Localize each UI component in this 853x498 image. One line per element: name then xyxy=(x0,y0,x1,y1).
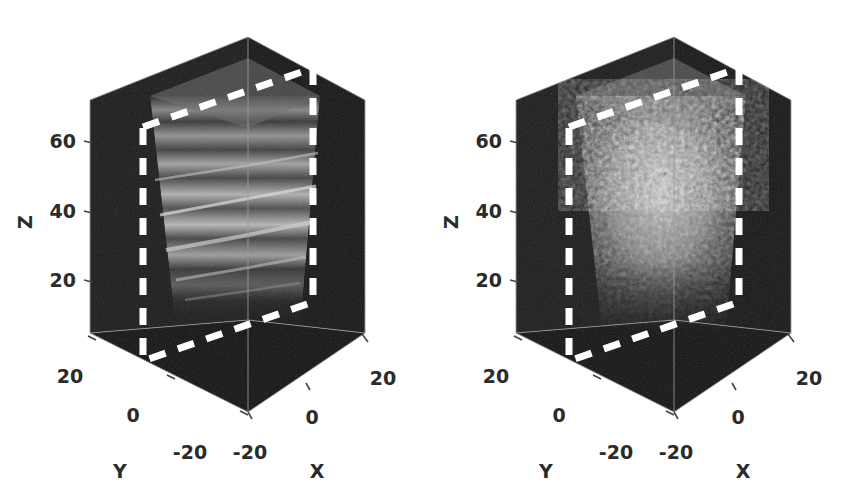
y-ticklabel-m20: -20 xyxy=(173,441,207,463)
x-tick-0 xyxy=(732,383,736,390)
y-tick-20 xyxy=(88,336,96,340)
x-tick-m20 xyxy=(248,412,252,419)
z-ticklabel-20: 20 xyxy=(476,269,502,291)
y-tick-0 xyxy=(593,375,601,379)
panel-left: 60 40 20 Z 20 0 -20 Y -20 0 xyxy=(0,0,427,498)
volume-speckle-right xyxy=(506,30,806,420)
x-ticklabel-0: 0 xyxy=(731,406,744,428)
x-ticklabel-m20: -20 xyxy=(659,441,693,463)
z-ticklabel-20: 20 xyxy=(50,269,76,291)
axis-label-y: Y xyxy=(112,460,127,482)
y-ticklabel-0: 0 xyxy=(126,404,139,426)
x-tick-m20 xyxy=(674,412,678,419)
y-ticklabel-20: 20 xyxy=(483,365,509,387)
z-ticklabel-40: 40 xyxy=(476,200,502,222)
axis-z-right: 60 40 20 Z xyxy=(440,130,518,291)
y-tick-20 xyxy=(514,336,522,340)
y-ticklabel-m20: -20 xyxy=(599,441,633,463)
axis-label-z: Z xyxy=(14,215,36,229)
axis-label-y: Y xyxy=(538,460,553,482)
panel-right: 60 40 20 Z 20 0 -20 Y -20 0 20 xyxy=(426,0,853,498)
y-ticklabel-20: 20 xyxy=(57,365,83,387)
x-ticklabel-m20: -20 xyxy=(233,441,267,463)
axis-label-x: X xyxy=(736,460,751,482)
plot-right-svg: 60 40 20 Z 20 0 -20 Y -20 0 20 xyxy=(426,0,853,498)
x-ticklabel-20: 20 xyxy=(370,367,396,389)
x-ticklabel-0: 0 xyxy=(305,406,318,428)
x-tick-0 xyxy=(306,383,310,390)
z-ticklabel-40: 40 xyxy=(50,200,76,222)
x-tick-20 xyxy=(788,334,794,342)
axis-z-left: 60 40 20 Z xyxy=(14,130,92,291)
plot-left-svg: 60 40 20 Z 20 0 -20 Y -20 0 xyxy=(0,0,427,498)
x-ticklabel-20: 20 xyxy=(796,367,822,389)
y-tick-0 xyxy=(167,375,175,379)
x-tick-20 xyxy=(362,334,368,342)
y-ticklabel-0: 0 xyxy=(552,404,565,426)
z-ticklabel-60: 60 xyxy=(50,130,76,152)
figure-root: 60 40 20 Z 20 0 -20 Y -20 0 xyxy=(0,0,853,498)
axis-label-x: X xyxy=(310,460,325,482)
z-ticklabel-60: 60 xyxy=(476,130,502,152)
volume-speckle-left xyxy=(80,30,380,420)
axis-label-z: Z xyxy=(440,215,462,229)
